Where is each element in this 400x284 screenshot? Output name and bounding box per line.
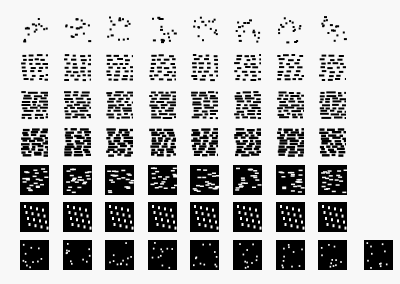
pattern-cell xyxy=(148,90,177,120)
pattern-cell xyxy=(318,90,347,120)
pattern-cell xyxy=(105,240,134,270)
pattern-cell xyxy=(233,240,262,270)
pattern-cell xyxy=(105,90,134,120)
pattern-cell xyxy=(233,202,262,232)
pattern-cell xyxy=(233,165,262,195)
pattern-cell xyxy=(233,127,262,157)
pattern-cell xyxy=(148,53,177,83)
pattern-cell xyxy=(148,240,177,270)
pattern-cell xyxy=(318,53,347,83)
pattern-cell xyxy=(190,165,219,195)
pattern-cell xyxy=(20,90,49,120)
pattern-cell xyxy=(318,240,347,270)
pattern-cell xyxy=(318,127,347,157)
pattern-cell xyxy=(105,165,134,195)
pattern-cell xyxy=(190,127,219,157)
pattern-cell xyxy=(63,15,92,45)
pattern-cell xyxy=(233,15,262,45)
pattern-grid xyxy=(0,0,400,284)
pattern-cell xyxy=(190,15,219,45)
pattern-cell xyxy=(63,90,92,120)
pattern-cell xyxy=(105,127,134,157)
pattern-cell xyxy=(105,202,134,232)
pattern-cell xyxy=(20,165,49,195)
pattern-cell xyxy=(20,127,49,157)
pattern-cell xyxy=(20,202,49,232)
pattern-cell xyxy=(276,15,305,45)
pattern-cell xyxy=(364,240,393,270)
pattern-cell xyxy=(318,165,347,195)
pattern-cell xyxy=(63,53,92,83)
pattern-cell xyxy=(63,127,92,157)
pattern-cell xyxy=(20,15,49,45)
pattern-cell xyxy=(276,90,305,120)
pattern-cell xyxy=(148,127,177,157)
pattern-cell xyxy=(20,240,49,270)
pattern-cell xyxy=(105,15,134,45)
pattern-cell xyxy=(318,202,347,232)
pattern-cell xyxy=(63,240,92,270)
pattern-cell xyxy=(63,202,92,232)
pattern-cell xyxy=(105,53,134,83)
pattern-cell xyxy=(190,240,219,270)
pattern-cell xyxy=(190,53,219,83)
pattern-cell xyxy=(276,127,305,157)
pattern-cell xyxy=(148,15,177,45)
pattern-cell xyxy=(63,165,92,195)
pattern-cell xyxy=(233,53,262,83)
pattern-cell xyxy=(190,90,219,120)
pattern-cell xyxy=(318,15,347,45)
pattern-cell xyxy=(276,202,305,232)
pattern-cell xyxy=(148,165,177,195)
pattern-cell xyxy=(190,202,219,232)
pattern-cell xyxy=(276,165,305,195)
pattern-cell xyxy=(233,90,262,120)
pattern-cell xyxy=(20,53,49,83)
pattern-cell xyxy=(276,53,305,83)
pattern-cell xyxy=(148,202,177,232)
pattern-cell xyxy=(276,240,305,270)
